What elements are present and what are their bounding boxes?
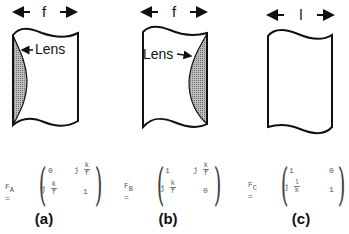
lens-label-a: Lens: [35, 41, 65, 57]
dimension-label-c: l: [299, 6, 302, 23]
cell-r1c1: 1: [165, 166, 170, 175]
caption-c: (c): [292, 210, 310, 227]
cell-r2c2: 0: [203, 186, 208, 195]
cell-r1c2: j kf: [193, 162, 209, 177]
panel-a-drawing: [13, 12, 78, 126]
lens-label-b: Lens: [143, 46, 173, 62]
caption-a: (a): [35, 210, 53, 227]
right-paren: ): [338, 159, 346, 210]
cell-r2c1: j lk: [284, 179, 300, 194]
dimension-label-a: f: [42, 3, 46, 20]
cell-r1c2: 0: [329, 166, 334, 175]
medium-slab-c: [268, 30, 332, 134]
cell-r2c1: j kf: [160, 180, 176, 195]
lens-b: [189, 34, 207, 124]
right-paren: ): [95, 159, 103, 210]
cell-r1c2: j kf: [74, 162, 90, 177]
diagram-canvas: [0, 0, 349, 234]
matrix-b-name: FB =: [124, 181, 133, 202]
lens-pointer-arrow-b: [177, 54, 191, 56]
matrix-c-name: FC =: [248, 180, 257, 201]
lens-a: [13, 35, 27, 125]
right-paren: ): [214, 159, 222, 210]
panel-b-drawing: [142, 12, 207, 127]
caption-b: (b): [158, 210, 177, 227]
matrix-a-name: FA =: [5, 182, 14, 203]
cell-r2c2: 1: [329, 185, 334, 194]
panel-c-drawing: [268, 15, 333, 133]
dimension-label-b: f: [172, 3, 176, 20]
cell-r2c2: 1: [83, 187, 88, 196]
cell-r1c1: 0: [48, 166, 53, 175]
cell-r2c1: j kf: [41, 181, 57, 196]
cell-r1c1: 1: [289, 166, 294, 175]
